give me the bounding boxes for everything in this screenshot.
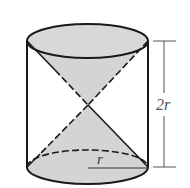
radius-label: r (97, 151, 103, 167)
cylinder-double-cone-diagram: r 2r (0, 0, 190, 188)
top-ellipse (27, 24, 148, 58)
height-label: 2r (156, 96, 171, 113)
lower-cone-fill (27, 105, 148, 184)
